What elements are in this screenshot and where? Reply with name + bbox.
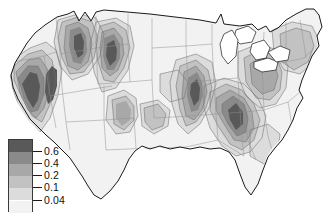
legend-swatch-06: [9, 140, 32, 152]
legend-tick-06: [33, 151, 42, 152]
seismic-hazard-map-figure: 0.6 0.4 0.2 0.1 0.04: [0, 0, 333, 221]
legend-label-04: 0.4: [44, 158, 59, 168]
legend-label-01: 0.1: [44, 182, 59, 192]
legend-swatch-04: [9, 152, 32, 164]
legend-tick-04: [33, 163, 42, 164]
hazard-legend: 0.6 0.4 0.2 0.1 0.04: [8, 139, 128, 213]
legend-tick-01: [33, 187, 42, 188]
legend-tick-004: [33, 200, 42, 201]
legend-swatch-01: [9, 176, 32, 188]
legend-swatch-base: [9, 201, 32, 213]
legend-color-box: [8, 139, 33, 212]
legend-swatch-02: [9, 164, 32, 176]
legend-tick-02: [33, 175, 42, 176]
legend-label-004: 0.04: [44, 195, 65, 205]
legend-swatch-004: [9, 188, 32, 200]
legend-label-02: 0.2: [44, 170, 59, 180]
legend-label-06: 0.6: [44, 146, 59, 156]
